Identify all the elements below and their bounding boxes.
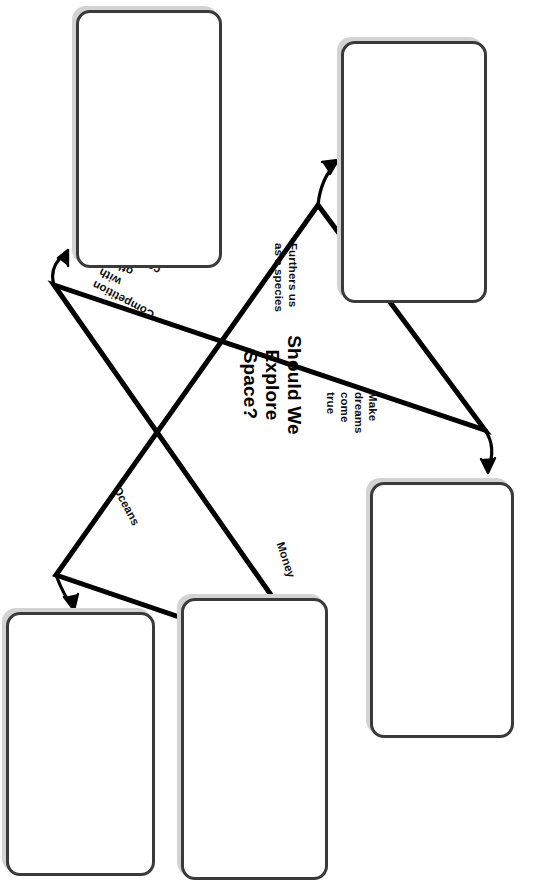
answer-box-bottom-middle[interactable] [181,598,328,880]
answer-box-top-right[interactable] [341,41,487,303]
arrow-head-make-dreams [481,458,495,473]
center-prompt: Should We Explore Space? [239,325,305,445]
answer-box-right[interactable] [370,482,514,738]
answer-box-bottom-left[interactable] [6,612,155,876]
arrow-head-furthers-us [322,160,338,174]
answer-box-top-left[interactable] [76,10,222,268]
worksheet-sheet: Should We Explore Space? Furthers us as … [0,0,538,880]
point-label-furthers-us: Furthers us as a species [272,243,300,312]
arrow-head-competition [58,250,68,266]
point-label-make-dreams: Make dreams come true [324,392,380,434]
